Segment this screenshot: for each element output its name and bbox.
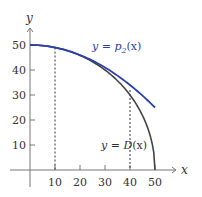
y-tick-label: 40 <box>12 64 26 77</box>
y-tick-label: 50 <box>12 39 26 52</box>
x-tick-label: 50 <box>148 176 162 189</box>
x-tick-label: 10 <box>48 176 62 189</box>
d-curve-label: y = D(x) <box>100 139 147 152</box>
chart: x y 10203040501020304050 y = p2(x) y = D… <box>0 0 202 197</box>
x-tick-label: 40 <box>123 176 137 189</box>
p2-curve <box>30 45 155 108</box>
x-tick-label: 30 <box>98 176 112 189</box>
ticks: 10203040501020304050 <box>12 39 162 189</box>
y-tick-label: 30 <box>12 89 26 102</box>
y-axis-label: y <box>25 11 33 25</box>
p2-curve-label: y = p2(x) <box>91 40 141 55</box>
y-tick-label: 20 <box>12 114 26 127</box>
x-axis-label: x <box>181 163 188 177</box>
y-tick-label: 10 <box>12 139 26 152</box>
x-tick-label: 20 <box>73 176 87 189</box>
